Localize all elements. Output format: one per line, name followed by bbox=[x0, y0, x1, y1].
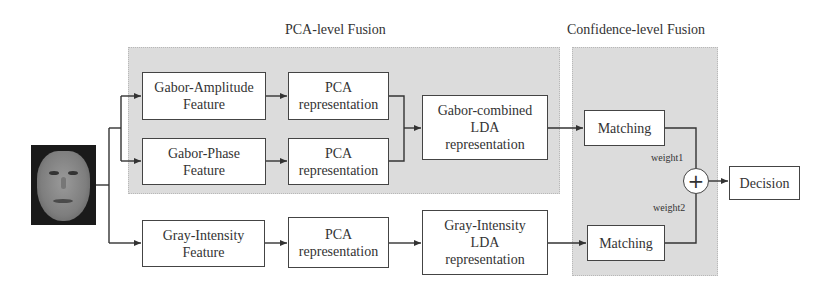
box-label: Gabor-Phase bbox=[168, 145, 240, 162]
box-label: PCA bbox=[325, 145, 352, 162]
box-label: PCA bbox=[325, 226, 352, 243]
gray-intensity-feature-box: Gray-Intensity Feature bbox=[142, 220, 265, 267]
box-label: representation bbox=[445, 251, 524, 268]
box-label: PCA bbox=[325, 79, 352, 96]
pca-representation-box-1: PCA representation bbox=[288, 72, 389, 120]
box-label: Gabor-combined bbox=[438, 102, 533, 119]
box-label: representation bbox=[299, 243, 378, 260]
gray-intensity-lda-box: Gray-Intensity LDA representation bbox=[422, 210, 548, 275]
gabor-phase-feature-box: Gabor-Phase Feature bbox=[142, 138, 266, 185]
box-label: representation bbox=[299, 162, 378, 179]
pca-representation-box-3: PCA representation bbox=[288, 217, 389, 268]
box-label: Feature bbox=[183, 162, 225, 179]
box-label: Gray-Intensity bbox=[163, 227, 245, 244]
box-label: Matching bbox=[599, 235, 653, 252]
box-label: Matching bbox=[598, 120, 652, 137]
box-label: representation bbox=[445, 136, 524, 153]
box-label: representation bbox=[299, 96, 378, 113]
box-label: Decision bbox=[740, 175, 790, 192]
box-label: Gray-Intensity bbox=[444, 217, 526, 234]
weight2-label: weight2 bbox=[653, 202, 685, 213]
sum-node-plus-icon: + bbox=[683, 168, 709, 194]
matching-box-1: Matching bbox=[584, 110, 665, 146]
box-label: Feature bbox=[183, 244, 225, 261]
box-label: Feature bbox=[183, 96, 225, 113]
connector-lines bbox=[0, 0, 828, 294]
box-label: LDA bbox=[471, 119, 500, 136]
face-image-icon bbox=[31, 145, 96, 225]
decision-box: Decision bbox=[729, 166, 800, 200]
matching-box-2: Matching bbox=[587, 225, 665, 261]
box-label: Gabor-Amplitude bbox=[154, 79, 253, 96]
box-label: LDA bbox=[471, 234, 500, 251]
gabor-combined-lda-box: Gabor-combined LDA representation bbox=[422, 95, 548, 160]
weight1-label: weight1 bbox=[651, 152, 683, 163]
gabor-amplitude-feature-box: Gabor-Amplitude Feature bbox=[142, 72, 266, 120]
pca-representation-box-2: PCA representation bbox=[288, 138, 389, 185]
plus-symbol: + bbox=[688, 171, 705, 191]
